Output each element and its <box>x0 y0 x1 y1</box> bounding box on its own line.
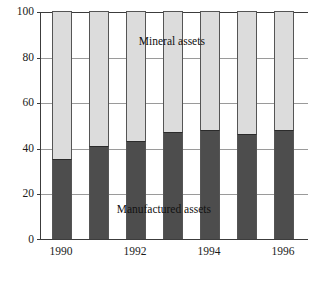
bar-1996 <box>274 11 294 239</box>
bar-segment-mineral <box>237 11 257 134</box>
plot-area: Mineral assets Manufactured assets <box>40 12 308 240</box>
stacked-bar-chart: 100 80 60 40 20 0 <box>0 0 326 286</box>
y-axis-label-80: 80 <box>23 52 35 64</box>
bar-segment-manufactured <box>126 141 146 239</box>
x-axis-label-1990: 1990 <box>50 246 73 258</box>
bar-segment-mineral <box>126 11 146 141</box>
bar-segment-manufactured <box>89 146 109 239</box>
plot-inner: Mineral assets Manufactured assets <box>41 12 308 239</box>
series-label-mineral-assets: Mineral assets <box>139 36 205 48</box>
tick-mark-0 <box>37 239 41 240</box>
bar-segment-manufactured <box>274 130 294 239</box>
bar-1991 <box>89 11 109 239</box>
tick-mark-100 <box>37 12 41 13</box>
bar-1995 <box>237 11 257 239</box>
tick-mark-20 <box>37 194 41 195</box>
y-axis-label-20: 20 <box>23 189 35 201</box>
x-axis-label-1992: 1992 <box>124 246 147 258</box>
tick-mark-40 <box>37 149 41 150</box>
x-axis-label-1996: 1996 <box>272 246 295 258</box>
bar-1990 <box>52 11 72 239</box>
x-axis-label-1994: 1994 <box>198 246 221 258</box>
bar-segment-manufactured <box>200 130 220 239</box>
y-axis-label-60: 60 <box>23 97 35 109</box>
bar-segment-manufactured <box>237 134 257 239</box>
tick-mark-60 <box>37 103 41 104</box>
bar-segment-mineral <box>274 11 294 130</box>
bar-segment-mineral <box>200 11 220 130</box>
y-axis-label-40: 40 <box>23 143 35 155</box>
bar-segment-mineral <box>89 11 109 146</box>
y-axis-label-0: 0 <box>28 234 34 246</box>
bar-segment-manufactured <box>163 132 183 239</box>
bar-segment-mineral <box>163 11 183 132</box>
tick-mark-80 <box>37 58 41 59</box>
series-label-manufactured-assets: Manufactured assets <box>117 205 211 217</box>
bar-segment-manufactured <box>52 159 72 239</box>
bar-segment-mineral <box>52 11 72 159</box>
y-axis-label-100: 100 <box>17 6 34 18</box>
